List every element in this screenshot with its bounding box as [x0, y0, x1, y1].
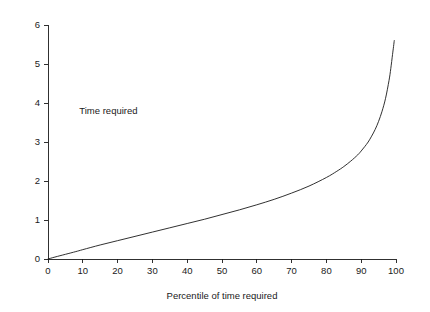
- data-series-line: [48, 41, 394, 259]
- x-axis-ticks: 0102030405060708090100: [45, 259, 404, 276]
- y-tick-label: 3: [35, 136, 40, 147]
- y-tick-label: 6: [35, 19, 40, 30]
- x-tick-label: 80: [321, 265, 332, 276]
- x-axis-title: Percentile of time required: [167, 290, 278, 301]
- x-tick-label: 10: [78, 265, 89, 276]
- chart-annotations: Time required: [79, 105, 137, 116]
- x-tick-label: 60: [252, 265, 263, 276]
- x-tick-label: 100: [388, 265, 404, 276]
- y-axis-ticks: 0123456: [35, 19, 48, 264]
- y-tick-label: 5: [35, 58, 40, 69]
- y-tick-label: 0: [35, 253, 40, 264]
- y-axis: 0123456: [35, 19, 48, 264]
- chart-figure: 0123456 0102030405060708090100 Time requ…: [0, 0, 430, 312]
- x-axis: 0102030405060708090100: [45, 259, 404, 276]
- x-tick-label: 70: [286, 265, 297, 276]
- chart-page: 0123456 0102030405060708090100 Time requ…: [0, 0, 430, 312]
- x-tick-label: 40: [182, 265, 193, 276]
- x-tick-label: 30: [147, 265, 158, 276]
- y-tick-label: 4: [35, 97, 40, 108]
- plot-area: [48, 41, 394, 259]
- y-tick-label: 2: [35, 175, 40, 186]
- y-tick-label: 1: [35, 214, 40, 225]
- x-tick-label: 0: [45, 265, 50, 276]
- x-tick-label: 20: [112, 265, 123, 276]
- chart-annotation-label: Time required: [79, 105, 137, 116]
- x-tick-label: 90: [356, 265, 367, 276]
- x-tick-label: 50: [217, 265, 228, 276]
